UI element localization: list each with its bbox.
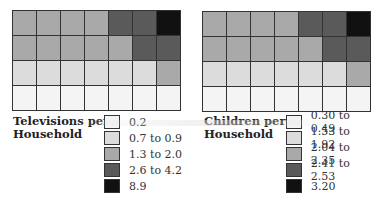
legend-swatch bbox=[286, 163, 302, 177]
grid-cell bbox=[37, 61, 60, 85]
children-legend-title: Children per Household bbox=[204, 115, 285, 141]
grid-cell bbox=[347, 62, 370, 86]
grid-cell bbox=[133, 36, 156, 60]
grid-cell bbox=[133, 11, 156, 35]
grid-cell bbox=[227, 12, 250, 36]
grid-cell bbox=[323, 37, 346, 61]
grid-cell bbox=[227, 37, 250, 61]
grid-cell bbox=[13, 36, 36, 60]
grid-cell bbox=[275, 87, 298, 111]
grid-cell bbox=[251, 12, 274, 36]
televisions-legend: 0.2 0.7 to 0.9 1.3 to 2.0 2.6 to 4.2 8.9 bbox=[104, 114, 182, 194]
grid-cell bbox=[61, 36, 84, 60]
legend-label: 3.20 bbox=[311, 180, 336, 193]
grid-cell bbox=[133, 86, 156, 110]
legend-swatch bbox=[104, 147, 120, 161]
legend-swatch bbox=[104, 179, 120, 193]
grid-cell bbox=[109, 36, 132, 60]
legend-swatch bbox=[104, 163, 120, 177]
scan-smudge bbox=[60, 120, 360, 126]
grid-cell bbox=[347, 87, 370, 111]
grid-cell bbox=[275, 37, 298, 61]
grid-cell bbox=[157, 61, 180, 85]
grid-cell bbox=[275, 12, 298, 36]
legend-item: 0.7 to 0.9 bbox=[104, 130, 182, 146]
grid-cell bbox=[347, 37, 370, 61]
legend-swatch bbox=[286, 179, 302, 193]
children-grid bbox=[202, 11, 371, 112]
televisions-legend-title: Televisions per Household bbox=[13, 115, 109, 141]
grid-cell bbox=[13, 86, 36, 110]
grid-cell bbox=[13, 11, 36, 35]
grid-cell bbox=[323, 87, 346, 111]
grid-cell bbox=[109, 11, 132, 35]
grid-cell bbox=[323, 12, 346, 36]
grid-cell bbox=[61, 61, 84, 85]
grid-cell bbox=[13, 61, 36, 85]
grid-cell bbox=[251, 62, 274, 86]
grid-cell bbox=[85, 61, 108, 85]
legend-item: 8.9 bbox=[104, 178, 182, 194]
televisions-panel: Televisions per Household 0.2 0.7 to 0.9… bbox=[0, 0, 187, 202]
legend-item: 2.6 to 4.2 bbox=[104, 162, 182, 178]
legend-label: 1.3 to 2.0 bbox=[129, 148, 182, 161]
grid-cell bbox=[157, 11, 180, 35]
grid-cell bbox=[85, 36, 108, 60]
grid-cell bbox=[133, 61, 156, 85]
grid-cell bbox=[109, 61, 132, 85]
legend-item: 2.41 to 2.53 bbox=[286, 162, 375, 178]
grid-cell bbox=[203, 62, 226, 86]
grid-cell bbox=[85, 86, 108, 110]
grid-cell bbox=[299, 62, 322, 86]
grid-cell bbox=[109, 86, 132, 110]
grid-cell bbox=[203, 37, 226, 61]
grid-cell bbox=[323, 62, 346, 86]
grid-cell bbox=[37, 36, 60, 60]
grid-cell bbox=[203, 12, 226, 36]
televisions-grid bbox=[12, 10, 181, 111]
children-panel: Children per Household 0.30 to 0.49 1.53… bbox=[190, 0, 375, 202]
legend-swatch bbox=[286, 131, 302, 145]
grid-cell bbox=[251, 37, 274, 61]
grid-cell bbox=[157, 86, 180, 110]
grid-cell bbox=[37, 11, 60, 35]
grid-cell bbox=[85, 11, 108, 35]
legend-title-line2: Household bbox=[204, 128, 285, 141]
grid-cell bbox=[299, 37, 322, 61]
grid-cell bbox=[275, 62, 298, 86]
grid-cell bbox=[299, 12, 322, 36]
grid-cell bbox=[251, 87, 274, 111]
grid-cell bbox=[37, 86, 60, 110]
legend-swatch bbox=[104, 131, 120, 145]
grid-cell bbox=[203, 87, 226, 111]
legend-title-line2: Household bbox=[13, 128, 109, 141]
grid-cell bbox=[347, 12, 370, 36]
grid-cell bbox=[227, 62, 250, 86]
grid-cell bbox=[61, 86, 84, 110]
legend-label: 0.7 to 0.9 bbox=[129, 132, 182, 145]
grid-cell bbox=[157, 36, 180, 60]
legend-item: 1.3 to 2.0 bbox=[104, 146, 182, 162]
grid-cell bbox=[61, 11, 84, 35]
legend-label: 8.9 bbox=[129, 180, 147, 193]
legend-swatch bbox=[286, 147, 302, 161]
grid-cell bbox=[299, 87, 322, 111]
grid-cell bbox=[227, 87, 250, 111]
legend-label: 2.6 to 4.2 bbox=[129, 164, 182, 177]
children-legend: 0.30 to 0.49 1.53 to 1.92 2.04 to 2.35 2… bbox=[286, 114, 375, 194]
